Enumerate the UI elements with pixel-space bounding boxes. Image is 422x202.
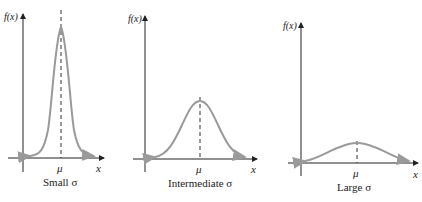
mean-label: μ	[352, 167, 359, 179]
mean-label: μ	[56, 162, 63, 174]
y-axis-label: f(x)	[4, 11, 19, 23]
panel-caption: Intermediate σ	[168, 177, 232, 189]
normal-distributions-figure: f(x) μ x Small σ f(x) μ x Intermediate σ…	[0, 0, 422, 202]
x-axis-label: x	[95, 162, 101, 174]
panel-intermediate-sigma: f(x) μ x Intermediate σ	[128, 13, 257, 189]
small-sigma-curve	[30, 27, 94, 156]
panel-caption: Large σ	[337, 181, 371, 193]
x-axis-label: x	[250, 163, 256, 175]
y-axis-label: f(x)	[128, 13, 143, 25]
mean-label: μ	[195, 163, 202, 175]
y-axis-label: f(x)	[283, 20, 298, 32]
panel-small-sigma: f(x) μ x Small σ	[4, 10, 104, 188]
x-axis-label: x	[412, 168, 418, 180]
panel-caption: Small σ	[43, 176, 77, 188]
panel-large-sigma: f(x) μ x Large σ	[283, 20, 418, 193]
